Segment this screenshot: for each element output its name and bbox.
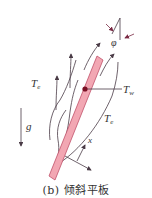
inclined-plate <box>49 56 103 180</box>
x-axis-indicator <box>65 145 91 170</box>
figure-caption: (b) 倾斜平板 <box>0 181 152 197</box>
label-tw: Tw <box>123 84 134 97</box>
label-te-right: Te <box>104 113 113 126</box>
label-te-left: Te <box>31 78 40 91</box>
label-gravity: g <box>26 121 32 132</box>
label-angle: φ <box>111 38 117 48</box>
label-axis-x: x <box>88 136 92 145</box>
inclined-plate-diagram <box>0 0 152 198</box>
